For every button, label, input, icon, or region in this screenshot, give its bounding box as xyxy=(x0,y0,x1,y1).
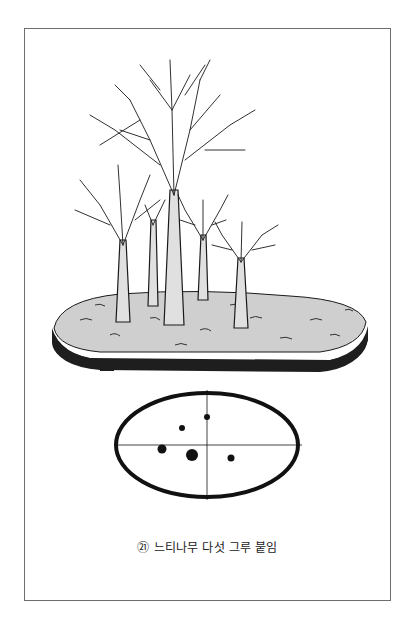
tree-position-dot xyxy=(228,455,235,462)
trunk-left xyxy=(116,240,130,322)
caption-number: ㉑ xyxy=(137,541,149,555)
trunk-main xyxy=(164,190,184,325)
tree-position-dot xyxy=(204,414,210,420)
soil-surface xyxy=(54,291,366,352)
trunk-center-left xyxy=(148,220,158,306)
trunk-center-right xyxy=(198,235,208,300)
figure-caption: ㉑ 느티나무 다섯 그루 붙임 xyxy=(0,538,415,555)
tree-position-dot xyxy=(158,445,167,454)
planting-plan-diagram xyxy=(114,390,302,500)
tree-position-dot xyxy=(179,425,185,431)
trunk-right xyxy=(234,258,248,328)
bonsai-illustration xyxy=(0,0,415,627)
tree-position-dot xyxy=(186,449,198,461)
caption-text: 느티나무 다섯 그루 붙임 xyxy=(154,541,278,555)
